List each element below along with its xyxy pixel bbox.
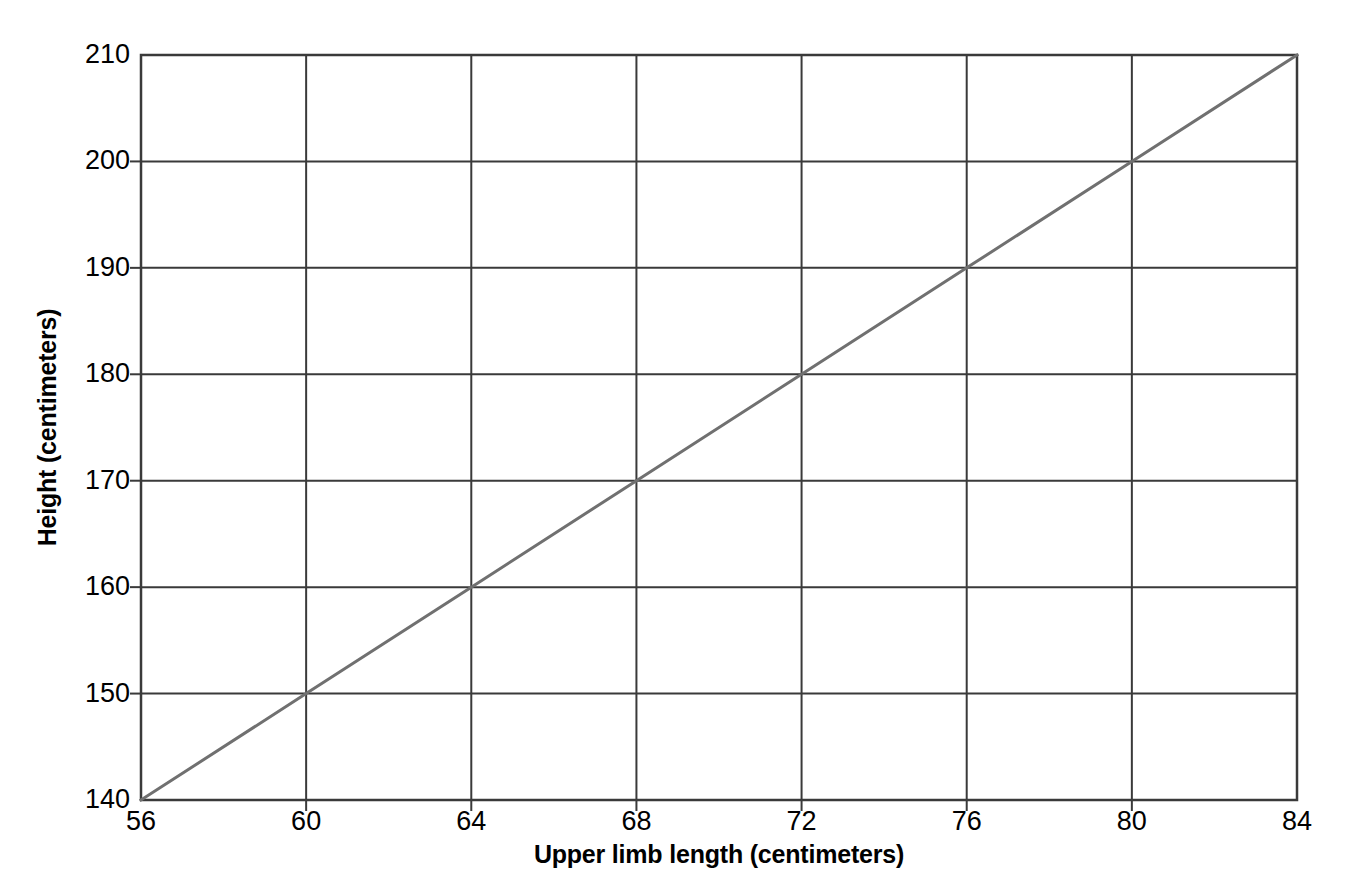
data-series-line	[141, 55, 1297, 800]
chart-container: Height (centimeters) Upper limb length (…	[0, 0, 1360, 892]
y-axis-ticks	[130, 161, 141, 693]
plot-area	[0, 0, 1360, 892]
x-axis-ticks	[306, 800, 1132, 811]
series-line	[141, 55, 1297, 800]
